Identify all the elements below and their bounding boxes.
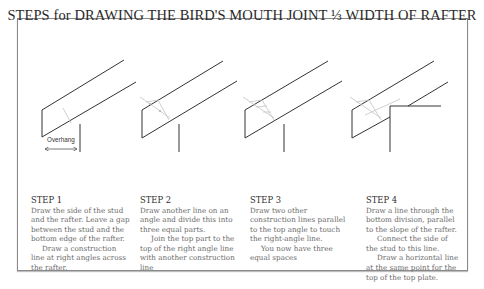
step-paragraph: Draw another line on an angle and divide… bbox=[140, 206, 240, 235]
rafter-bottom-edge bbox=[245, 81, 342, 138]
step-1-text: STEP 1 Draw the side of the stud and the… bbox=[31, 195, 131, 273]
step-paragraph: Join the top part to the top of the righ… bbox=[140, 234, 240, 272]
step-paragraph: You now have three equal spaces bbox=[250, 244, 350, 263]
step-4-text: STEP 4 Draw a line through the bottom di… bbox=[366, 195, 460, 282]
step-2-drawing bbox=[140, 61, 237, 152]
step-paragraph: Draw a construction line at right angles… bbox=[31, 244, 131, 273]
step-paragraph: Draw a horizontal line at the same point… bbox=[366, 253, 460, 282]
step-heading: STEP 1 bbox=[31, 195, 131, 205]
rafter-top-edge bbox=[42, 60, 124, 110]
step-heading: STEP 3 bbox=[250, 195, 350, 205]
step-2-text: STEP 2 Draw another line on an angle and… bbox=[140, 195, 240, 273]
construction-line bbox=[158, 100, 169, 120]
step-3-drawing bbox=[243, 61, 342, 152]
construction-line bbox=[63, 108, 71, 123]
step-3-text: STEP 3 Draw two other construction lines… bbox=[250, 195, 350, 263]
step-heading: STEP 4 bbox=[366, 195, 460, 205]
rafter-bottom-edge bbox=[352, 117, 390, 138]
rafter-bottom-edge-upper bbox=[408, 82, 448, 106]
step-paragraph: Draw the side of the stud and the rafter… bbox=[31, 206, 131, 244]
step-heading: STEP 2 bbox=[140, 195, 240, 205]
rafter-top-edge bbox=[352, 61, 434, 110]
overhang-label: Overhang bbox=[47, 136, 75, 143]
rafter-top-edge bbox=[142, 61, 223, 110]
step-paragraph: Draw a line through the bottom division,… bbox=[366, 206, 460, 235]
parallel-construction-line-2 bbox=[256, 106, 267, 107]
division-mark bbox=[159, 110, 161, 112]
step-paragraph: Draw two other construction lines parall… bbox=[250, 206, 350, 244]
step-4-drawing bbox=[350, 61, 448, 152]
step-paragraph: Connect the side of the stud to this lin… bbox=[366, 234, 460, 253]
rafter-bottom-edge bbox=[42, 82, 136, 137]
rafter-top-edge bbox=[245, 61, 328, 110]
division-mark bbox=[149, 103, 151, 105]
rafter-bottom-edge bbox=[142, 81, 237, 138]
